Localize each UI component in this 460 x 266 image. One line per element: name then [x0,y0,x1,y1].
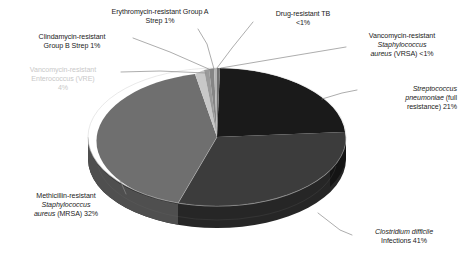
label-mrsa: Methicillin-resistant Staphylococcus aur… [6,192,126,220]
label-vrsa: Vancomycin-resistant Staphylococcus aure… [348,32,456,60]
leader-line-vrsa [221,47,346,68]
label-tb-line1: Drug-resistant TB [276,10,331,18]
label-mrsa-species2: aureus [34,210,55,218]
label-cdifficile-species: Clostridium difficile [375,228,433,236]
label-clindamycin-line1: Clindamycin-resistant [39,33,106,41]
leader-line-clindamycin [133,38,211,70]
pie-chart-figure: Erythromycin-resistant Group A Strep 1% … [0,0,460,266]
label-erythromycin-line1: Erythromycin-resistant Group A [111,8,208,16]
label-vrsa-line3: (VRSA) <1% [394,50,434,58]
leader-line-cdifficile [318,213,352,235]
label-streptococcus-pneumoniae: Streptococcus pneumoniae (full resistanc… [359,85,457,113]
label-erythromycin-line2: Strep 1% [146,17,175,25]
label-vrsa-line1: Vancomycin-resistant [369,32,435,40]
label-clindamycin-line2: Group B Strep 1% [44,42,101,50]
slice-streptococcus-pneumoniae [217,68,345,137]
label-vre: Vancomycin-resistant Enterococcus (VRE) … [5,66,121,94]
label-mrsa-species: Staphylococcus [42,201,91,209]
label-cdifficile-line2: Infections 41% [381,237,427,245]
label-spneumoniae-line3: resistance) 21% [407,103,457,111]
leader-line-spneumoniae [322,90,357,99]
label-drug-resistant-tb: Drug-resistant TB <1% [255,10,351,28]
label-spneumoniae-line2: (full [446,94,457,102]
label-vre-line2: Enterococcus (VRE) [31,75,94,83]
label-vre-line1: Vancomycin-resistant [30,66,96,74]
label-clindamycin-group-b-strep: Clindamycin-resistant Group B Strep 1% [11,33,133,51]
label-vrsa-species2: aureus [370,50,391,58]
leader-line-vre [121,71,206,73]
leader-line-tb [217,22,253,68]
label-vrsa-species: Staphylococcus [378,41,427,49]
label-mrsa-line1: Methicillin-resistant [36,192,95,200]
label-spneumoniae-species: Streptococcus [413,85,457,93]
label-erythromycin-group-a-strep: Erythromycin-resistant Group A Strep 1% [89,8,231,26]
label-mrsa-line3: (MRSA) 32% [57,210,98,218]
label-vre-line3: 4% [58,84,68,92]
leader-line-erythromycin [198,29,214,69]
label-spneumoniae-species2: pneumoniae [405,94,444,102]
label-tb-line2: <1% [296,19,310,27]
label-clostridium-difficile: Clostridium difficile Infections 41% [352,228,456,246]
